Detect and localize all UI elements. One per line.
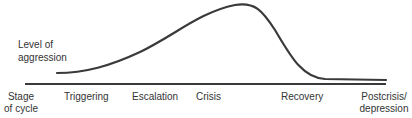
stage-escalation: Escalation bbox=[132, 91, 178, 103]
y-label-line1: Level of bbox=[18, 39, 53, 51]
stage-postcrisis-line1: Postcrisis/ bbox=[356, 91, 412, 103]
stage-triggering: Triggering bbox=[64, 91, 109, 103]
stage-recovery: Recovery bbox=[281, 91, 323, 103]
x-axis-label-line2: of cycle bbox=[0, 103, 42, 115]
stage-crisis: Crisis bbox=[196, 91, 221, 103]
aggression-cycle-diagram: Level of aggression Stage of cycle Trigg… bbox=[0, 0, 412, 118]
y-label-line2: aggression bbox=[18, 52, 67, 64]
stage-postcrisis-line2: depression bbox=[356, 103, 412, 115]
aggression-curve bbox=[57, 4, 386, 80]
x-axis-label-line1: Stage bbox=[0, 91, 42, 103]
